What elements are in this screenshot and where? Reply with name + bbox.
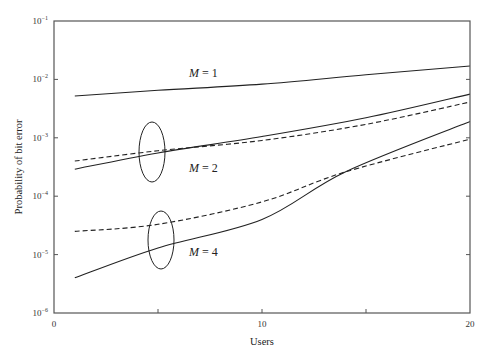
axis-ticks: 0102010−610−510−410−310−210−1: [33, 15, 475, 329]
label-m1: M = 1: [188, 66, 218, 80]
series-line-4: [75, 139, 470, 231]
y-tick-label: 10−4: [33, 190, 48, 201]
y-tick-label: 10−6: [33, 307, 48, 318]
y-tick-label: 10−5: [33, 249, 48, 260]
label-m4: M = 4: [188, 245, 218, 259]
y-tick-label: 10−2: [33, 73, 48, 84]
series-line-2: [75, 102, 470, 161]
y-axis-label: Probability of bit error: [13, 119, 24, 214]
ellipse-m4: [148, 211, 174, 269]
x-tick-label: 0: [52, 319, 57, 329]
series-line-3: [75, 122, 470, 278]
series-line-1: [75, 94, 470, 169]
y-tick-label: 10−1: [33, 15, 48, 26]
bit-error-chart: 0102010−610−510−410−310−210−1 M = 1 M = …: [0, 0, 491, 362]
plot-lines: [75, 66, 470, 278]
x-tick-label: 20: [466, 319, 476, 329]
y-tick-label: 10−3: [33, 132, 48, 143]
plot-frame: [54, 21, 470, 313]
x-tick-label: 10: [258, 319, 268, 329]
x-axis-label: Users: [250, 336, 274, 347]
series-line-0: [75, 66, 470, 96]
label-m2: M = 2: [188, 161, 218, 175]
group-ellipses: [139, 122, 174, 269]
